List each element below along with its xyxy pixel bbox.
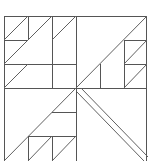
quadrant-top-left	[4, 16, 76, 88]
bl-small-diagonal-2	[52, 136, 76, 161]
br-band-lower-edge	[77, 92, 144, 161]
tr-long-diagonal	[76, 16, 147, 88]
quadrant-bottom-left	[4, 88, 76, 161]
quilt-block-diagram	[0, 0, 148, 161]
tr-small-diagonal-1	[124, 40, 147, 64]
tr-small-diagonal-2	[124, 64, 147, 88]
quadrant-bottom-right	[77, 88, 148, 161]
tl-small-diagonal-2	[52, 16, 76, 40]
tl-small-diagonal-1	[4, 16, 28, 40]
bl-long-diagonal	[4, 88, 76, 161]
tl-small-diagonal-3	[4, 64, 28, 88]
br-band-upper-edge	[81, 88, 148, 157]
bl-small-diagonal-1	[28, 136, 52, 161]
quadrant-top-right	[76, 16, 147, 88]
